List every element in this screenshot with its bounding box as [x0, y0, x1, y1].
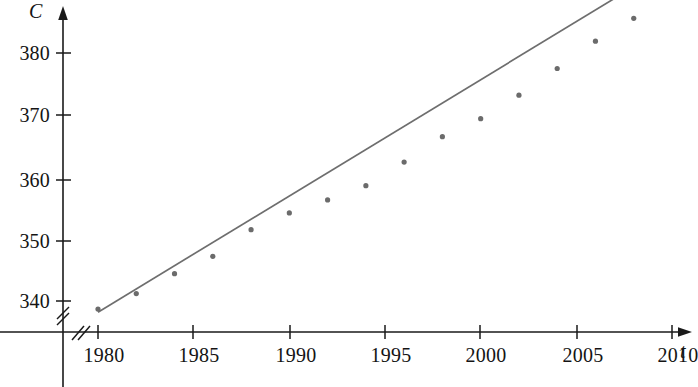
data-point	[478, 116, 483, 121]
x-tick-label-2005: 2005	[563, 344, 604, 367]
regression-line	[98, 0, 662, 312]
data-point	[172, 271, 177, 276]
data-point	[325, 197, 330, 202]
x-tick-label-1995: 1995	[371, 344, 412, 367]
x-tick-label-2010: 2010	[658, 344, 698, 367]
data-point	[287, 210, 292, 215]
data-point	[402, 160, 407, 165]
y-tick-label-380: 380	[0, 42, 50, 65]
x-axis-break-icon	[72, 326, 90, 340]
y-axis-arrowhead	[58, 6, 68, 20]
data-point	[363, 183, 368, 188]
y-tick-label-340: 340	[0, 290, 50, 313]
y-tick-label-350: 350	[0, 230, 50, 253]
data-point	[593, 39, 598, 44]
x-tick-label-1980: 1980	[84, 344, 125, 367]
x-tick-label-1985: 1985	[179, 344, 220, 367]
x-tick-label-1990: 1990	[276, 344, 317, 367]
x-tick-label-2000: 2000	[466, 344, 507, 367]
data-point	[95, 306, 100, 311]
data-point	[134, 291, 139, 296]
data-point	[248, 227, 253, 232]
y-tick-label-370: 370	[0, 104, 50, 127]
x-axis-arrowhead	[678, 327, 692, 336]
data-point	[210, 254, 215, 259]
y-tick-label-360: 360	[0, 169, 50, 192]
data-point	[631, 16, 636, 21]
data-point	[516, 93, 521, 98]
data-point	[555, 66, 560, 71]
y-axis-title: C	[29, 0, 42, 23]
data-point	[440, 134, 445, 139]
scatter-points	[95, 16, 636, 312]
